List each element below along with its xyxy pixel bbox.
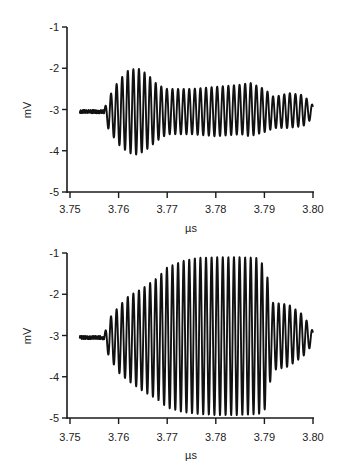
top-x-tick-label: 3.75 [59,203,80,215]
top-y-tick-label: -2 [49,62,59,74]
bottom-y-tick-label: -5 [49,412,59,424]
bottom-y-tick-label: -1 [49,247,59,259]
bottom-chart-xlabel: µs [185,449,197,461]
top-chart-waveform [80,69,313,155]
top-x-tick-label: 3.77 [156,203,177,215]
top-x-tick-label: 3.79 [254,203,275,215]
top-x-tick-label: 3.76 [108,203,129,215]
bottom-x-tick-label: 3.76 [108,431,129,443]
top-chart-panel: -1-2-3-4-53.753.763.773.783.793.80 mV µs [21,21,324,234]
bottom-x-tick-label: 3.79 [254,431,275,443]
bottom-y-tick-label: -3 [49,330,59,342]
bottom-y-tick-label: -2 [49,288,59,300]
bottom-x-tick-label: 3.77 [156,431,177,443]
top-y-tick-label: -1 [49,21,59,33]
bottom-x-tick-label: 3.80 [302,431,323,443]
bottom-chart-waveform [80,257,313,415]
bottom-x-tick-label: 3.78 [205,431,226,443]
top-chart-xlabel: µs [185,222,197,234]
figure: -1-2-3-4-53.753.763.773.783.793.80 mV µs… [0,0,345,475]
top-y-tick-label: -3 [49,104,59,116]
top-x-tick-label: 3.78 [205,203,226,215]
bottom-x-tick-label: 3.75 [59,431,80,443]
bottom-chart-ylabel: mV [21,327,33,344]
top-y-tick-label: -4 [49,145,59,157]
top-y-tick-label: -5 [49,186,59,198]
bottom-chart-panel: -1-2-3-4-53.753.763.773.783.793.80 mV µs [21,247,324,461]
top-x-tick-label: 3.80 [302,203,323,215]
top-chart-ylabel: mV [21,101,33,118]
bottom-y-tick-label: -4 [49,371,59,383]
